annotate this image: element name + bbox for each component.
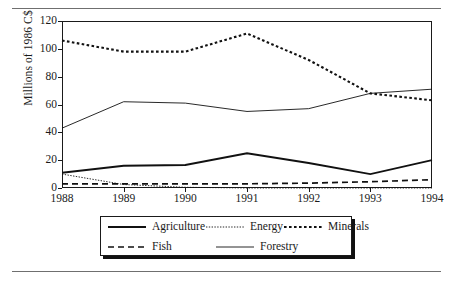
- plot-area: 020406080100120 198819891990199119921993…: [62, 21, 432, 188]
- chart-legend: Agriculture Energy Minerals Fish Forestr…: [100, 216, 352, 256]
- x-tick-mark: [370, 188, 371, 192]
- legend-label-forestry: Forestry: [255, 241, 298, 253]
- legend-label-fish: Fish: [147, 241, 172, 253]
- y-tick-label: 60: [46, 99, 58, 111]
- legend-row-1: Agriculture Energy Minerals: [101, 217, 351, 237]
- figure-bottom-rule: [12, 271, 441, 272]
- x-tick-label: 1991: [236, 193, 259, 205]
- series-line-minerals: [62, 34, 432, 101]
- legend-swatch-forestry: [215, 241, 255, 253]
- x-tick-mark: [247, 188, 248, 192]
- x-tick-mark: [185, 188, 186, 192]
- legend-swatch-agriculture: [107, 221, 147, 233]
- figure-top-rule: [12, 8, 441, 9]
- y-tick-mark: [58, 188, 62, 189]
- legend-item-energy[interactable]: Energy: [205, 221, 283, 233]
- legend-label-agriculture: Agriculture: [147, 221, 205, 233]
- legend-row-2: Fish Forestry: [101, 237, 351, 257]
- legend-item-forestry[interactable]: Forestry: [215, 241, 298, 253]
- x-tick-label: 1989: [112, 193, 135, 205]
- legend-swatch-energy: [205, 221, 245, 233]
- legend-label-energy: Energy: [245, 221, 283, 233]
- legend-swatch-fish: [107, 241, 147, 253]
- y-axis-label: Millions of 1986 C$: [22, 0, 34, 128]
- figure-container: Millions of 1986 C$ 020406080100120 1988…: [0, 0, 453, 282]
- y-tick-label: 80: [46, 71, 58, 83]
- x-tick-label: 1994: [421, 193, 444, 205]
- x-tick-label: 1993: [359, 193, 382, 205]
- x-tick-mark: [124, 188, 125, 192]
- x-tick-mark: [309, 188, 310, 192]
- series-line-fish: [62, 180, 432, 184]
- legend-item-agriculture[interactable]: Agriculture: [107, 221, 205, 233]
- series-lines: [62, 21, 432, 188]
- y-tick-label: 100: [40, 43, 57, 55]
- x-tick-label: 1990: [174, 193, 197, 205]
- y-tick-label: 120: [40, 15, 57, 27]
- x-tick-label: 1988: [51, 193, 74, 205]
- legend-item-fish[interactable]: Fish: [107, 241, 215, 253]
- y-tick-label: 40: [46, 127, 58, 139]
- legend-label-minerals: Minerals: [323, 221, 369, 233]
- series-line-agriculture: [62, 153, 432, 174]
- legend-swatch-minerals: [283, 221, 323, 233]
- y-tick-label: 20: [46, 154, 58, 166]
- x-tick-label: 1992: [297, 193, 320, 205]
- legend-item-minerals[interactable]: Minerals: [283, 221, 369, 233]
